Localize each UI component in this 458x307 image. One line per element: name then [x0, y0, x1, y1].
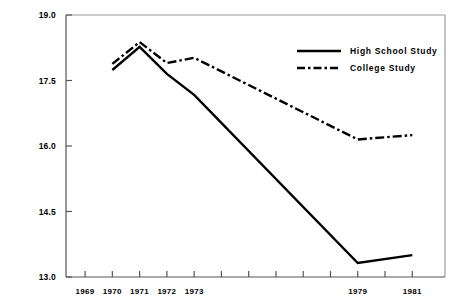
legend-swatches: [297, 51, 341, 68]
series-line: [112, 47, 412, 263]
y-tick-label: 13.0: [26, 272, 56, 282]
legend-label: College Study: [350, 63, 416, 73]
data-series-group: [112, 42, 412, 263]
x-tick-label: 1979: [338, 287, 378, 296]
x-tick-label: 1973: [174, 287, 214, 296]
series-line: [112, 42, 412, 139]
y-tick-label: 17.5: [26, 76, 56, 86]
y-axis-tick-marks: [66, 15, 72, 277]
x-tick-label: 1981: [392, 287, 432, 296]
y-tick-label: 16.0: [26, 141, 56, 151]
x-axis-tick-marks: [85, 271, 412, 277]
y-tick-label: 14.5: [26, 207, 56, 217]
y-tick-label: 19.0: [26, 10, 56, 20]
legend-label: High School Study: [350, 46, 437, 56]
chart-container: Mean Social Criticism 13.014.516.017.519…: [0, 0, 458, 307]
